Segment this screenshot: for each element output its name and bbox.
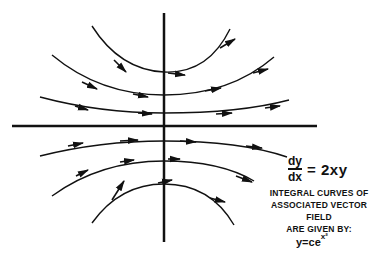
equation-rhs: = 2xy — [307, 161, 347, 178]
solution-exponent: x² — [321, 232, 328, 241]
denominator: dx — [288, 171, 302, 183]
caption-line-1: INTEGRAL CURVES OF — [262, 187, 376, 199]
caption-line-2: ASSOCIATED VECTOR FIELD — [262, 199, 376, 223]
derivative-fraction: dy dx — [288, 155, 302, 183]
curve-5 — [52, 161, 254, 196]
solution-formula: y=cex² — [296, 234, 328, 248]
numerator: dy — [288, 155, 302, 167]
curve-1 — [92, 26, 230, 72]
caption: INTEGRAL CURVES OF ASSOCIATED VECTOR FIE… — [262, 187, 376, 235]
differential-equation: dy dx = 2xy — [288, 155, 347, 183]
solution-base: y=ce — [296, 236, 321, 248]
